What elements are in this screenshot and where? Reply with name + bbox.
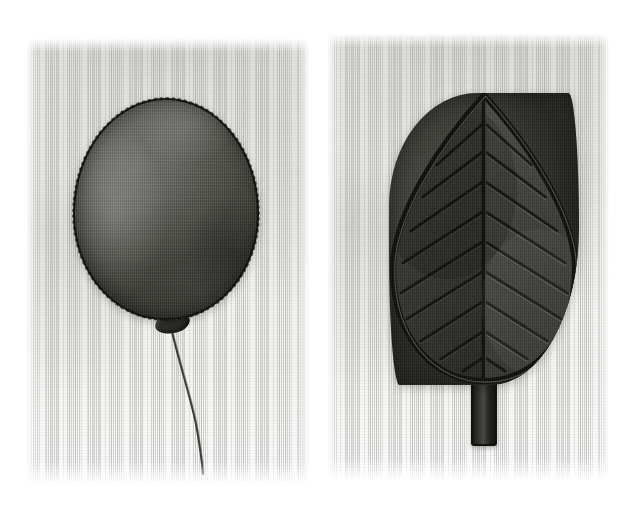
leaf-vein-pattern [389, 93, 579, 385]
leaf-inner-surface [389, 93, 579, 385]
leaf-blade [389, 93, 579, 385]
balloon-edge-stitch [72, 97, 260, 321]
photograph-canvas [0, 0, 637, 509]
panel-leaf [328, 34, 609, 480]
leaf-stem [471, 378, 497, 446]
panel-balloon [27, 39, 309, 484]
